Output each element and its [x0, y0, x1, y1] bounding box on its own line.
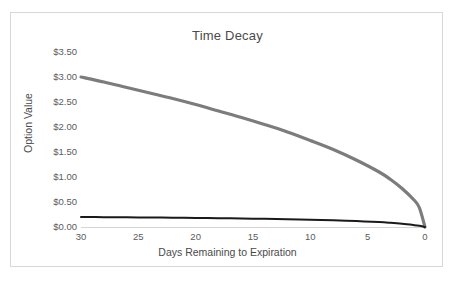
series-line-at-the-money-option	[81, 77, 425, 227]
x-tick-label: 30	[66, 231, 96, 242]
chart-frame: Time Decay $3.50$3.00$2.50$2.00$1.50$1.0…	[10, 12, 443, 267]
x-tick-label: 20	[181, 231, 211, 242]
x-tick-label: 5	[353, 231, 383, 242]
x-tick-label: 0	[410, 231, 440, 242]
x-tick-label: 10	[295, 231, 325, 242]
x-tick-label: 25	[123, 231, 153, 242]
x-axis-title: Days Remaining to Expiration	[11, 246, 444, 258]
x-tick-label: 15	[238, 231, 268, 242]
series-line-out-of-the-money-option	[81, 217, 425, 227]
plot-curves	[11, 13, 444, 268]
x-axis-tick-labels: 302520151050	[11, 231, 444, 245]
